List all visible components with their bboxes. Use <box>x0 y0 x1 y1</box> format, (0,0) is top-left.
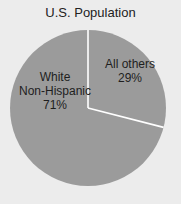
slice-label-white-non-hispanic: White Non-Hispanic 71% <box>10 70 100 112</box>
label-value: 71% <box>10 98 100 112</box>
label-line: White <box>10 70 100 84</box>
label-value: 29% <box>100 71 160 85</box>
label-line: All others <box>100 57 160 71</box>
slice-label-all-others: All others 29% <box>100 57 160 85</box>
label-line: Non-Hispanic <box>10 84 100 98</box>
